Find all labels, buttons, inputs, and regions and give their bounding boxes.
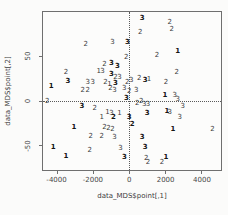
data-point-label: 3 bbox=[79, 103, 84, 110]
data-point-label: 3 bbox=[86, 79, 90, 86]
data-point-label: 1 bbox=[64, 152, 69, 159]
data-point-label: 1 bbox=[163, 153, 168, 160]
data-point-label: 2 bbox=[175, 69, 179, 76]
data-point-label: 1 bbox=[175, 48, 180, 55]
x-tick-label: 2000 bbox=[157, 176, 175, 184]
data-point-label: 2 bbox=[210, 126, 214, 133]
data-point-label: 1 bbox=[51, 143, 56, 150]
data-point-label: 3 bbox=[145, 110, 150, 117]
data-point-label: 3 bbox=[122, 85, 126, 92]
data-point-label: 1 bbox=[147, 76, 151, 83]
data-point-label: 3 bbox=[140, 15, 145, 22]
data-point-label: 2 bbox=[130, 120, 135, 127]
data-point-label: 2 bbox=[99, 133, 103, 140]
y-tick-mark bbox=[39, 101, 43, 102]
data-point-label: 3 bbox=[118, 144, 122, 151]
data-point-label: 2 bbox=[81, 87, 85, 94]
data-point-label: 3 bbox=[66, 78, 71, 85]
zero-horizontal-dotted-line bbox=[43, 101, 221, 102]
x-tick-mark bbox=[57, 170, 58, 174]
data-point-label: 3 bbox=[180, 103, 184, 110]
data-point-label: 2 bbox=[89, 133, 93, 140]
data-point-label: 1 bbox=[117, 110, 121, 117]
x-tick-mark bbox=[129, 170, 130, 174]
data-point-label: 2 bbox=[88, 147, 92, 154]
data-point-label: 1 bbox=[71, 124, 76, 131]
data-point-label: 3 bbox=[112, 134, 116, 141]
data-point-label: 2 bbox=[170, 25, 174, 32]
data-point-label: 3 bbox=[134, 87, 138, 94]
data-point-label: 2 bbox=[146, 159, 150, 166]
y-tick-mark bbox=[39, 145, 43, 146]
data-point-label: 3 bbox=[129, 77, 133, 84]
data-point-label: 2 bbox=[64, 69, 68, 76]
data-point-label: 1 bbox=[170, 126, 175, 133]
x-tick-label: -4000 bbox=[46, 176, 66, 184]
data-point-label: 2 bbox=[137, 74, 141, 81]
data-point-label: 3 bbox=[168, 109, 172, 116]
data-point-label: 1 bbox=[162, 92, 167, 99]
data-point-label: 2 bbox=[92, 104, 96, 111]
x-axis-title: data_MDS$point[,1] bbox=[42, 192, 222, 200]
data-point-label: 3 bbox=[178, 113, 182, 120]
data-point-label: 3 bbox=[124, 95, 129, 102]
y-tick-label: -50 bbox=[24, 140, 32, 151]
data-point-label: 2 bbox=[164, 79, 168, 86]
y-tick-label: 0 bbox=[24, 99, 32, 103]
data-point-label: 2 bbox=[155, 51, 159, 58]
data-point-label: 2 bbox=[135, 99, 139, 106]
data-point-label: 2 bbox=[138, 28, 142, 35]
data-point-label: 3 bbox=[140, 134, 145, 141]
x-tick-mark bbox=[201, 170, 202, 174]
data-point-label: 3 bbox=[122, 153, 127, 160]
x-tick-mark bbox=[93, 170, 94, 174]
data-point-label: 3 bbox=[146, 101, 150, 108]
data-point-label: 3 bbox=[125, 39, 130, 46]
data-point-label: 2 bbox=[45, 97, 49, 104]
scatter-plot-figure: data_MDS$point[,2] 322233221223133222313… bbox=[0, 0, 228, 215]
data-point-label: 2 bbox=[110, 126, 114, 133]
data-point-label: 3 bbox=[100, 67, 104, 74]
data-point-label: 3 bbox=[112, 87, 116, 94]
x-tick-mark bbox=[165, 170, 166, 174]
x-tick-label: -2000 bbox=[83, 176, 103, 184]
y-tick-label: 50 bbox=[24, 51, 32, 60]
data-point-label: 3 bbox=[143, 143, 148, 150]
data-point-label: 3 bbox=[176, 95, 180, 102]
data-point-label: 3 bbox=[109, 60, 114, 67]
data-point-label: 3 bbox=[115, 63, 120, 70]
x-tick-label: 4000 bbox=[193, 176, 211, 184]
y-axis-title: data_MDS$point[,2] bbox=[4, 11, 12, 171]
plot-area: 3222332212231332223133323213232312222332… bbox=[43, 12, 221, 170]
data-point-label: 2 bbox=[111, 113, 116, 120]
y-tick-mark bbox=[39, 56, 43, 57]
data-point-label: 1 bbox=[49, 82, 54, 89]
data-point-label: 3 bbox=[90, 79, 94, 86]
plot-box: 3222332212231332223133323213232312222332… bbox=[42, 11, 222, 171]
data-point-label: 2 bbox=[124, 54, 128, 61]
data-point-label: 2 bbox=[84, 40, 88, 47]
x-tick-label: 0 bbox=[127, 176, 131, 184]
data-point-label: 3 bbox=[110, 39, 114, 46]
data-point-label: 1 bbox=[99, 113, 103, 120]
data-point-label: 2 bbox=[86, 87, 90, 94]
